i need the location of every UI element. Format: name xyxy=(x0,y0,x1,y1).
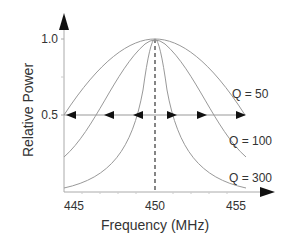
y-axis-arrow-icon xyxy=(59,13,69,30)
y-axis-title: Relative Power xyxy=(20,63,36,157)
y-tick-label: 1.0 xyxy=(41,32,58,46)
arrow-right-q50-icon xyxy=(236,111,246,119)
x-axis-arrow-icon xyxy=(260,187,275,197)
y-tick-label: 0.5 xyxy=(41,108,58,122)
x-axis-title: Frequency (MHz) xyxy=(101,217,209,233)
x-tick-label: 445 xyxy=(64,199,84,213)
annotation-q300: Q = 300 xyxy=(229,171,272,185)
arrow-left-q100-icon xyxy=(104,111,114,119)
x-tick-label: 450 xyxy=(145,199,165,213)
resonance-chart: 1.0 0.5 445 450 455 Frequency (MHz) Rela… xyxy=(0,0,281,244)
annotation-q100: Q = 100 xyxy=(229,134,272,148)
annotation-q50: Q = 50 xyxy=(232,87,269,101)
x-tick-label: 455 xyxy=(226,199,246,213)
arrow-left-q50-icon xyxy=(66,111,76,119)
arrow-right-q100-icon xyxy=(197,111,207,119)
